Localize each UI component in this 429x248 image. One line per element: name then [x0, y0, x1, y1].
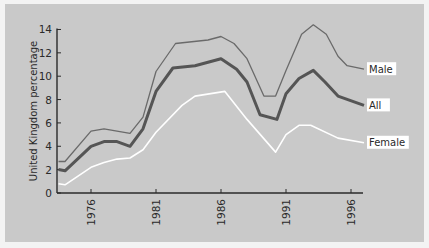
- series-line-all: [59, 59, 365, 171]
- y-axis-label: United Kingdom percentage: [28, 41, 39, 181]
- x-tick-label: 1981: [150, 199, 162, 226]
- y-tick-label: 6: [45, 117, 52, 129]
- y-tick-label: 14: [39, 23, 53, 35]
- x-tick-label: 1976: [85, 199, 97, 226]
- series-label-all: All: [369, 100, 381, 111]
- x-tick-label: 1996: [345, 199, 357, 226]
- series-labels: MaleAllFemale: [367, 62, 409, 149]
- x-tick-label: 1991: [280, 199, 292, 226]
- y-tick-label: 2: [45, 164, 52, 176]
- y-tick-label: 10: [39, 70, 52, 82]
- series-label-male: Male: [369, 64, 393, 75]
- y-tick-label: 0: [45, 187, 52, 199]
- line-chart: 0246810121419761981198619911996 MaleAllF…: [0, 0, 429, 248]
- series-lines: [59, 25, 365, 185]
- y-tick-label: 8: [45, 94, 52, 106]
- series-label-female: Female: [369, 137, 405, 148]
- y-tick-label: 4: [45, 140, 52, 152]
- axes: 0246810121419761981198619911996: [39, 23, 363, 225]
- series-line-female: [59, 91, 365, 184]
- y-tick-label: 12: [39, 47, 52, 59]
- x-tick-label: 1986: [215, 199, 227, 226]
